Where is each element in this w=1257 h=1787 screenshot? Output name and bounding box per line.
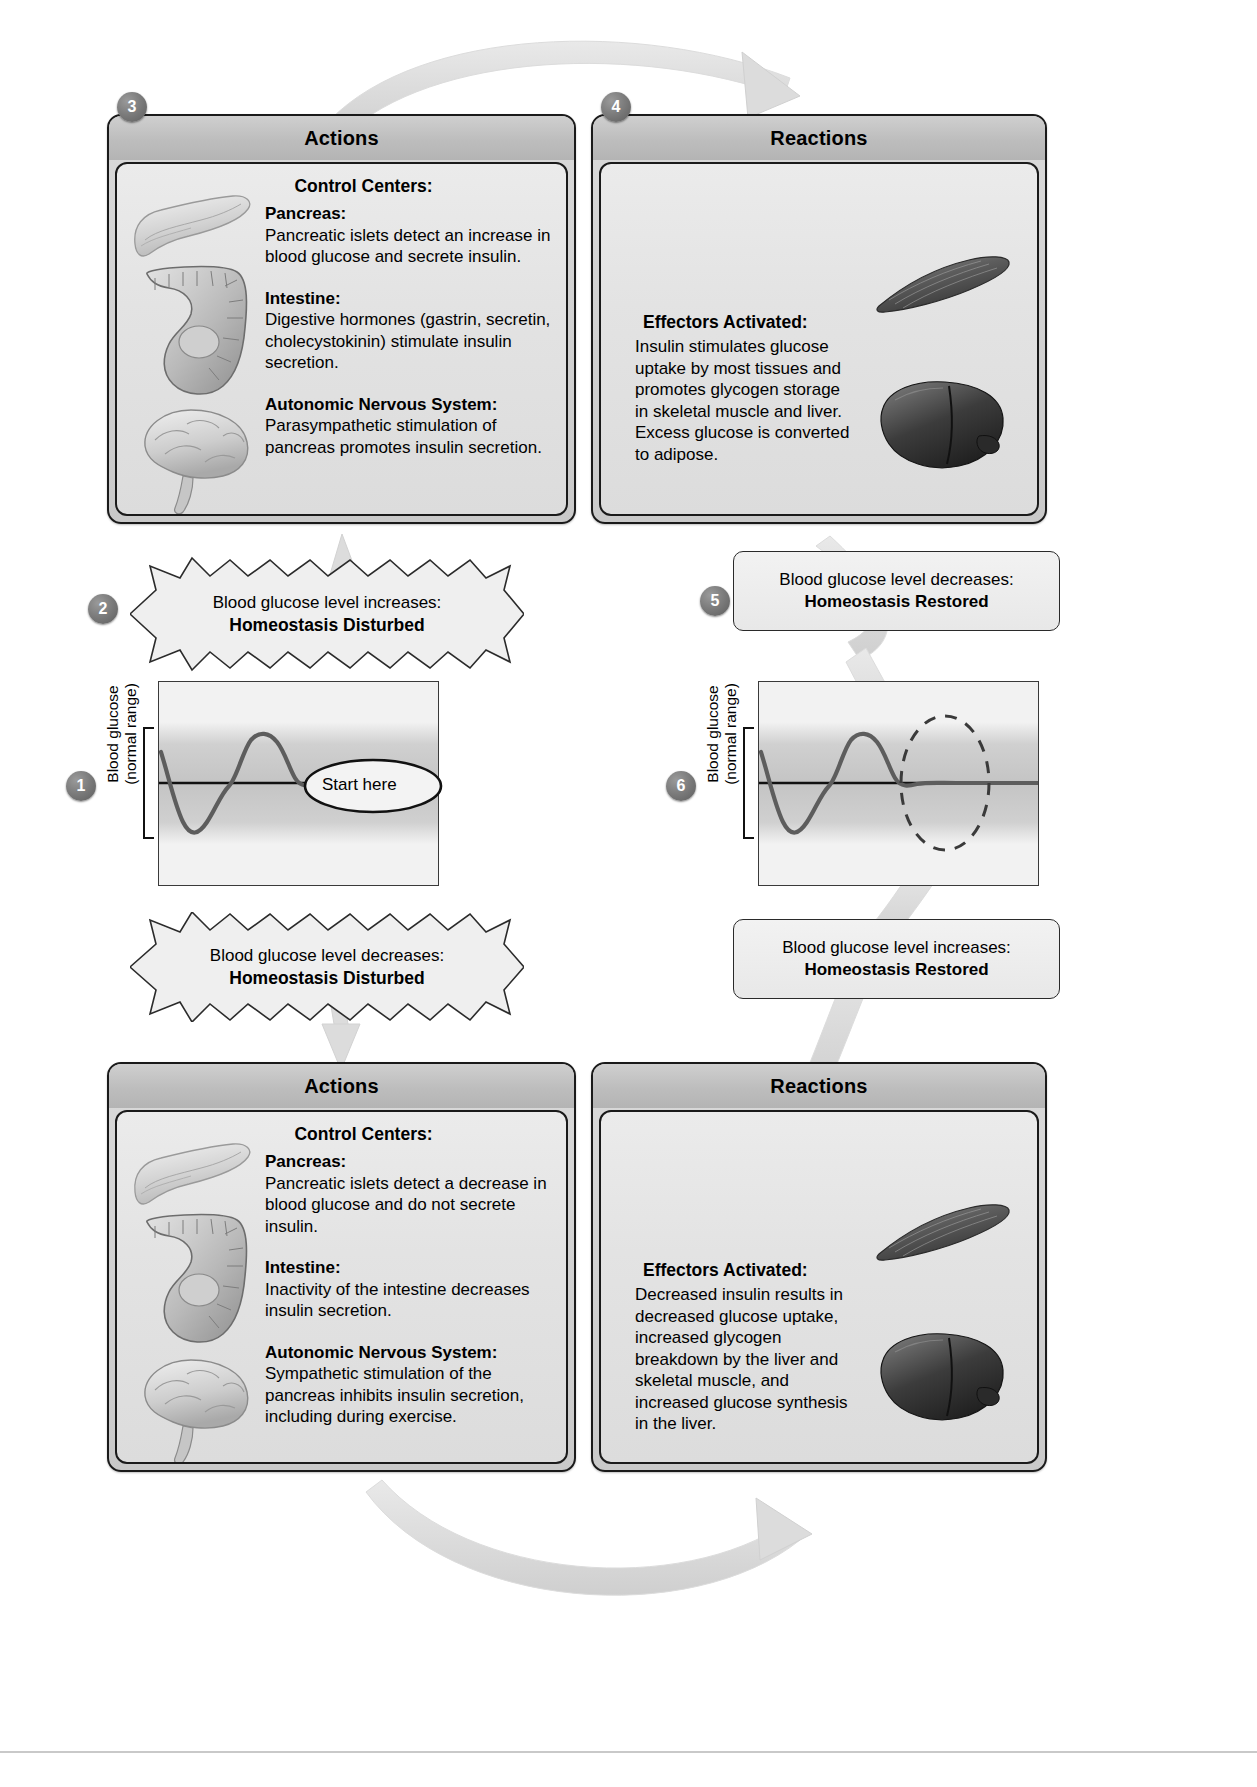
item-label-intestine: Intestine: bbox=[265, 288, 556, 310]
arrow-bottom-arc bbox=[366, 1480, 812, 1595]
callout-box-decrease-restored: Blood glucose level decreases: Homeostas… bbox=[733, 551, 1060, 631]
panel-body-reactions-bottom: Effectors Activated: Decreased insulin r… bbox=[599, 1110, 1039, 1464]
item-label-ans: Autonomic Nervous System: bbox=[265, 394, 556, 416]
graph-right-range-bracket bbox=[741, 727, 755, 839]
skeletal-muscle-icon bbox=[873, 1198, 1013, 1268]
panel-header-reactions-bottom: Reactions bbox=[593, 1064, 1045, 1108]
step-number-1: 1 bbox=[66, 771, 96, 801]
actions-bottom-item-intestine: Intestine: Inactivity of the intestine d… bbox=[265, 1257, 556, 1322]
intestine-icon bbox=[125, 1204, 261, 1344]
item-text-pancreas: Pancreatic islets detect a decrease in b… bbox=[265, 1173, 556, 1238]
item-text-intestine: Digestive hormones (gastrin, secretin, c… bbox=[265, 309, 556, 374]
item-label-intestine: Intestine: bbox=[265, 1257, 556, 1279]
effectors-text-top: Insulin stimulates glucose uptake by mos… bbox=[635, 336, 853, 465]
panel-actions-bottom: Actions bbox=[107, 1062, 576, 1472]
burst-line1: Blood glucose level increases: bbox=[213, 592, 442, 614]
effectors-text-bottom: Decreased insulin results in decreased g… bbox=[635, 1284, 853, 1435]
panel-reactions-bottom: Reactions Effectors Activated: Decreased… bbox=[591, 1062, 1047, 1472]
actions-bottom-item-pancreas: Pancreas: Pancreatic islets detect a dec… bbox=[265, 1151, 556, 1237]
callout-burst-decrease-disturbed: Blood glucose level decreases: Homeostas… bbox=[130, 912, 524, 1022]
box-line1: Blood glucose level increases: bbox=[782, 937, 1011, 959]
graph-right-svg bbox=[759, 682, 1038, 885]
brain-icon bbox=[131, 1350, 261, 1464]
burst-line2: Homeostasis Disturbed bbox=[229, 968, 424, 988]
graph-right-axis-label: Blood glucose (normal range) bbox=[704, 667, 740, 801]
panel-header-actions-bottom: Actions bbox=[109, 1064, 574, 1108]
item-label-ans: Autonomic Nervous System: bbox=[265, 1342, 556, 1364]
callout-burst-increase-disturbed: Blood glucose level increases: Homeostas… bbox=[130, 556, 524, 672]
box-text-decrease-restored: Blood glucose level decreases: Homeostas… bbox=[779, 569, 1013, 613]
panel-header-actions-top: Actions bbox=[109, 116, 574, 160]
burst-line1: Blood glucose level decreases: bbox=[210, 945, 444, 967]
diagram-canvas: 3 4 2 5 1 6 Actions bbox=[0, 0, 1257, 1787]
brain-icon bbox=[131, 400, 261, 516]
step-number-2: 2 bbox=[88, 594, 118, 624]
panel-actions-top: Actions bbox=[107, 114, 576, 524]
panel-body-actions-top: Control Centers: Pancreas: Pancreatic is… bbox=[115, 162, 568, 516]
panel-reactions-top: Reactions bbox=[591, 114, 1047, 524]
skeletal-muscle-icon bbox=[873, 250, 1013, 320]
step-number-4: 4 bbox=[601, 92, 631, 122]
pancreas-icon bbox=[127, 1130, 257, 1210]
item-label-pancreas: Pancreas: bbox=[265, 203, 556, 225]
box-line2: Homeostasis Restored bbox=[804, 592, 988, 611]
effectors-title-bottom: Effectors Activated: bbox=[635, 1260, 853, 1281]
liver-icon bbox=[875, 374, 1011, 480]
start-here-label: Start here bbox=[322, 775, 397, 795]
panel-body-reactions-top: Effectors Activated: Insulin stimulates … bbox=[599, 162, 1039, 516]
step-number-3: 3 bbox=[117, 92, 147, 122]
actions-bottom-item-ans: Autonomic Nervous System: Sympathetic st… bbox=[265, 1342, 556, 1428]
panel-body-actions-bottom: Control Centers: Pancreas: Pancreatic is… bbox=[115, 1110, 568, 1464]
graph-blood-glucose-right bbox=[758, 681, 1039, 886]
graph-left-range-bracket bbox=[141, 727, 155, 839]
item-text-pancreas: Pancreatic islets detect an increase in … bbox=[265, 225, 556, 268]
callout-box-increase-restored: Blood glucose level increases: Homeostas… bbox=[733, 919, 1060, 999]
box-line2: Homeostasis Restored bbox=[804, 960, 988, 979]
page-footer-rule bbox=[0, 1751, 1257, 1753]
item-text-intestine: Inactivity of the intestine decreases in… bbox=[265, 1279, 556, 1322]
item-text-ans: Parasympathetic stimulation of pancreas … bbox=[265, 415, 556, 458]
intestine-icon bbox=[125, 256, 261, 396]
item-text-ans: Sympathetic stimulation of the pancreas … bbox=[265, 1363, 556, 1428]
effectors-block-bottom: Effectors Activated: Decreased insulin r… bbox=[635, 1260, 853, 1435]
effectors-title-top: Effectors Activated: bbox=[635, 312, 853, 333]
box-text-increase-restored: Blood glucose level increases: Homeostas… bbox=[782, 937, 1011, 981]
panel-header-reactions-top: Reactions bbox=[593, 116, 1045, 160]
actions-top-item-ans: Autonomic Nervous System: Parasympatheti… bbox=[265, 394, 556, 459]
effectors-block-top: Effectors Activated: Insulin stimulates … bbox=[635, 312, 853, 465]
actions-top-item-intestine: Intestine: Digestive hormones (gastrin, … bbox=[265, 288, 556, 374]
actions-top-item-pancreas: Pancreas: Pancreatic islets detect an in… bbox=[265, 203, 556, 268]
step-number-5: 5 bbox=[700, 586, 730, 616]
graph-left-axis-label: Blood glucose (normal range) bbox=[104, 667, 140, 801]
burst-text-increase-disturbed: Blood glucose level increases: Homeostas… bbox=[213, 592, 442, 637]
item-label-pancreas: Pancreas: bbox=[265, 1151, 556, 1173]
step-number-6: 6 bbox=[666, 771, 696, 801]
burst-text-decrease-disturbed: Blood glucose level decreases: Homeostas… bbox=[210, 945, 444, 990]
pancreas-icon bbox=[127, 182, 257, 262]
burst-line2: Homeostasis Disturbed bbox=[229, 615, 424, 635]
liver-icon bbox=[875, 1326, 1011, 1432]
box-line1: Blood glucose level decreases: bbox=[779, 569, 1013, 591]
